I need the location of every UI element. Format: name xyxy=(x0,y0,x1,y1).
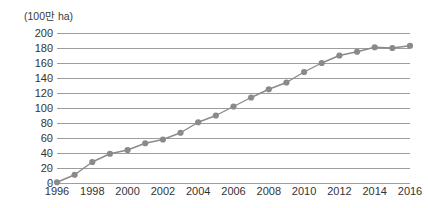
line-chart: (100만 ha) 020406080100120140160180200 19… xyxy=(0,0,428,208)
plot-area xyxy=(57,33,410,183)
data-point-marker xyxy=(107,151,113,157)
y-axis-tick-mark xyxy=(48,153,53,154)
data-point-marker xyxy=(72,172,78,178)
x-axis-tick-label: 2016 xyxy=(398,186,422,197)
data-point-marker xyxy=(372,44,378,50)
data-point-marker xyxy=(319,60,325,66)
y-axis-tick-mark xyxy=(48,108,53,109)
data-point-marker xyxy=(213,112,219,118)
y-axis-tick-mark xyxy=(48,78,53,79)
y-axis-tick-group: 020406080100120140160180200 xyxy=(22,33,53,183)
data-point-marker xyxy=(354,49,360,55)
data-point-marker xyxy=(301,69,307,75)
x-axis-tick-label: 1996 xyxy=(45,186,69,197)
data-point-marker xyxy=(283,79,289,85)
data-point-marker xyxy=(195,119,201,125)
data-point-marker xyxy=(177,130,183,136)
data-point-marker xyxy=(248,94,254,100)
data-point-marker xyxy=(142,140,148,146)
x-axis-tick-group: 1996199820002002200420062008201020122014… xyxy=(57,186,410,204)
y-axis-tick-mark xyxy=(48,183,53,184)
y-axis-tick-mark xyxy=(48,33,53,34)
x-axis-tick-label: 2014 xyxy=(362,186,386,197)
data-point-marker xyxy=(160,136,166,142)
data-point-marker xyxy=(230,103,236,109)
gridline xyxy=(57,183,410,184)
y-axis-tick-mark xyxy=(48,123,53,124)
x-axis-tick-label: 2006 xyxy=(221,186,245,197)
y-axis-unit-label: (100만 ha) xyxy=(24,8,73,23)
y-axis-tick-mark xyxy=(48,63,53,64)
y-axis-tick-mark xyxy=(48,138,53,139)
data-point-marker xyxy=(407,43,413,49)
data-point-marker xyxy=(89,159,95,165)
data-point-marker xyxy=(266,86,272,92)
x-axis-tick-label: 2004 xyxy=(186,186,210,197)
x-axis-tick-label: 1998 xyxy=(80,186,104,197)
x-axis-tick-label: 2008 xyxy=(257,186,281,197)
y-axis-tick-mark xyxy=(48,168,53,169)
x-axis-tick-label: 2002 xyxy=(151,186,175,197)
y-axis-tick-mark xyxy=(48,93,53,94)
x-axis-tick-label: 2000 xyxy=(115,186,139,197)
x-axis-tick-label: 2012 xyxy=(327,186,351,197)
data-series-line xyxy=(57,33,410,183)
y-axis-tick-mark xyxy=(48,48,53,49)
series-polyline xyxy=(57,46,410,183)
data-point-marker xyxy=(389,45,395,51)
data-point-marker xyxy=(125,147,131,153)
x-axis-tick-label: 2010 xyxy=(292,186,316,197)
data-point-marker xyxy=(336,52,342,58)
